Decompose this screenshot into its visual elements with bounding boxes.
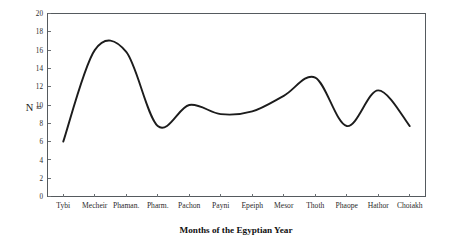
x-tick-label: Mecheir [82, 201, 108, 210]
x-axis-title: Months of the Egyptian Year [180, 225, 293, 235]
x-tick-label: Tybi [56, 201, 70, 210]
x-tick-label: Choiakh [397, 201, 423, 210]
x-tick-label: Pachon [178, 201, 201, 210]
x-tick-label: Hathor [368, 201, 390, 210]
y-tick-label: 6 [39, 138, 43, 146]
y-tick-label: 18 [36, 28, 44, 36]
y-tick-label: 20 [36, 10, 44, 18]
y-axis-label: N = [26, 102, 42, 113]
y-tick-label: 14 [36, 65, 44, 73]
x-tick-label: Phaope [336, 201, 359, 210]
x-tick-label: Mesor [274, 201, 294, 210]
y-tick-label: 8 [39, 120, 43, 128]
chart-figure: 02468101214161820 TybiMecheirPhaman.Phar… [0, 0, 452, 249]
y-tick-label: 12 [36, 83, 44, 91]
x-tick-label: Payni [212, 201, 229, 210]
y-tick-label: 16 [36, 47, 44, 55]
x-tick-label: Epeiph [241, 201, 263, 210]
x-tick-label: Thoth [306, 201, 324, 210]
x-tick-label: Phaman. [113, 201, 139, 210]
x-tick-label: Pharm. [147, 201, 169, 210]
y-tick-label: 4 [39, 157, 43, 165]
y-tick-label: 0 [39, 193, 43, 201]
y-tick-label: 2 [39, 175, 43, 183]
chart-canvas: 02468101214161820 TybiMecheirPhaman.Phar… [0, 0, 452, 249]
